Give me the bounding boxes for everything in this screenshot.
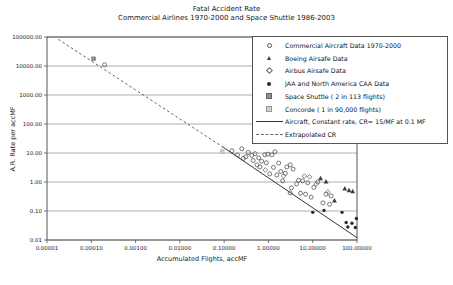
data-point-jaa-caa [340,211,343,214]
data-point-commercial [253,152,257,156]
chart-header: Fatal Accident Rate Commercial Airlines … [0,5,453,23]
legend-label-airbus: Airbus Airsafe Data [285,67,346,74]
data-point-commercial [283,171,287,175]
dark-square-icon [253,93,285,99]
data-point-commercial [288,163,292,167]
legend-label-extrapolated: Extrapolated CR [285,131,336,138]
data-point-commercial [299,191,303,195]
y-tick-label: 100000.00 [12,34,42,40]
open-diamond-icon [253,68,285,73]
data-point-jaa-caa [350,221,353,224]
dashed-line-icon [253,134,285,135]
data-point-commercial [258,165,262,169]
data-point-commercial [279,170,283,174]
y-tick-label: 1000.00 [19,92,42,98]
data-point-commercial [260,159,264,163]
data-point-commercial [257,156,261,160]
data-point-jaa-caa [346,225,349,228]
x-tick-label: 1.00000 [257,245,280,251]
y-tick-label: 0.10 [30,208,43,214]
filled-triangle-icon [253,56,285,60]
legend-label-concorde: Concorde ( 1 in 90,000 flights) [285,106,381,113]
data-point-commercial [246,150,250,154]
x-tick-label: 0.10000 [213,245,236,251]
series-line-extrapolated-cr [58,39,245,161]
legend-box: Commercial Aircraft Data 1970-2000 Boein… [252,36,448,144]
data-point-boeing [342,186,347,190]
chart-title: Fatal Accident Rate [0,5,453,14]
data-point-commercial [291,167,295,171]
data-point-concorde [220,150,224,154]
x-tick-label: 0.00010 [80,245,103,251]
x-tick-label: 0.00001 [36,245,59,251]
data-point-commercial [251,159,255,163]
filled-circle-icon [253,82,285,86]
legend-item-airbus: Airbus Airsafe Data [253,65,447,77]
data-point-jaa-caa [344,221,347,224]
data-point-airbus [263,168,268,173]
data-point-commercial [306,181,310,185]
data-point-boeing [318,176,323,180]
x-tick-label: 0.01000 [168,245,191,251]
data-point-commercial [289,186,293,190]
open-circle-icon [253,43,285,48]
solid-line-icon [253,121,285,122]
x-tick-label: 0.00100 [124,245,147,251]
y-tick-label: 10.00 [26,150,42,156]
y-axis-label: A.R. Rate per accMF [9,106,17,171]
data-point-jaa-caa [322,209,325,212]
legend-label-boeing: Boeing Airsafe Data [285,55,348,62]
light-square-icon [253,106,285,112]
data-point-boeing [332,198,337,202]
data-point-space-shuttle [92,57,96,61]
legend-label-space-shuttle: Space Shuttle ( 2 in 113 flights) [285,93,385,100]
x-tick-label: 100.00000 [342,245,372,251]
y-tick-label: 1.00 [30,179,43,185]
data-point-jaa-caa [355,217,358,220]
data-point-commercial [312,185,316,189]
y-tick-label: 100.00 [23,121,43,127]
legend-item-commercial: Commercial Aircraft Data 1970-2000 [253,39,447,51]
legend-item-constant-rate: Aircraft, Constant rate, CR= 15/MF at 0.… [253,116,447,128]
data-point-commercial [275,173,279,177]
data-point-boeing [347,188,352,192]
x-tick-label: 10.00000 [300,245,327,251]
data-point-commercial [321,201,325,205]
chart-subtitle: Commercial Airlines 1970-2000 and Space … [0,14,453,23]
fatal-accident-rate-chart: Fatal Accident Rate Commercial Airlines … [0,0,453,285]
data-point-jaa-caa [354,226,357,229]
y-tick-label: 10000.00 [16,63,43,69]
x-axis-label: Accumulated Flights, accMF [47,255,357,263]
data-point-commercial [304,192,308,196]
data-point-jaa-caa [311,211,314,214]
data-point-airbus [307,175,312,180]
legend-item-jaa-caa: JAA and North America CAA Data [253,78,447,90]
data-point-commercial [277,161,281,165]
legend-item-boeing: Boeing Airsafe Data [253,52,447,64]
y-tick-label: 0.01 [30,237,42,243]
legend-item-concorde: Concorde ( 1 in 90,000 flights) [253,103,447,115]
data-point-commercial [271,165,275,169]
data-point-commercial [329,194,333,198]
data-point-commercial [268,172,272,176]
legend-label-constant-rate: Aircraft, Constant rate, CR= 15/MF at 0.… [285,118,426,125]
data-point-commercial [309,195,313,199]
data-point-airbus [302,174,307,179]
legend-item-space-shuttle: Space Shuttle ( 2 in 113 flights) [253,90,447,102]
data-point-commercial [240,147,244,151]
data-point-commercial [328,202,332,206]
data-point-commercial [230,149,234,153]
data-point-boeing [350,189,355,193]
legend-label-commercial: Commercial Aircraft Data 1970-2000 [285,42,401,49]
legend-item-extrapolated: Extrapolated CR [253,129,447,141]
legend-label-jaa-caa: JAA and North America CAA Data [285,80,389,87]
data-point-commercial [264,161,268,165]
data-point-boeing [324,179,329,183]
